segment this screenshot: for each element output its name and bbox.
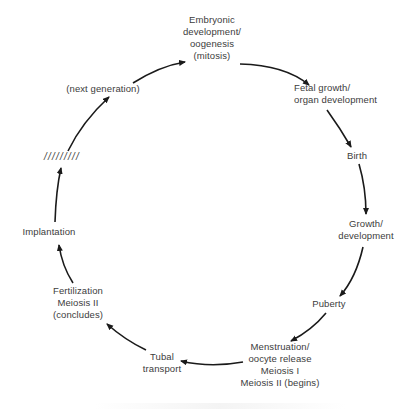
node-tubal-transport: Tubal transport: [143, 351, 181, 375]
node-text: Meiosis II (begins): [241, 377, 320, 389]
arrow-implantation-to-break: [55, 168, 61, 222]
generation-break-hatch: /////////: [44, 151, 80, 163]
node-text: (concludes): [53, 309, 103, 321]
node-text: oogenesis: [183, 38, 241, 50]
node-growth-development: Growth/ development: [338, 218, 394, 242]
node-text: development/: [183, 26, 241, 38]
node-text: /////////: [44, 151, 80, 163]
node-text: Growth/: [338, 218, 394, 230]
node-embryonic-development: Embryonic development/ oogenesis (mitosi…: [183, 14, 241, 62]
arrow-menstruation-to-tubal: [181, 361, 243, 365]
arrow-growth-to-puberty: [340, 247, 363, 296]
arrow-birth-to-growth: [359, 164, 366, 214]
node-text: Embryonic: [183, 14, 241, 26]
arrow-tubal-to-fertilization: [107, 324, 146, 350]
node-fertilization: Fertilization Meiosis II (concludes): [53, 285, 103, 321]
cycle-arrows: [0, 0, 416, 417]
arrow-fertilization-to-implantation: [59, 245, 73, 283]
arrow-fetal-to-birth: [327, 110, 351, 147]
node-implantation: Implantation: [23, 226, 76, 238]
node-text: (next generation): [66, 83, 140, 95]
node-text: Implantation: [23, 226, 76, 238]
node-text: Fertilization: [53, 285, 103, 297]
faint-artifact: [95, 403, 345, 409]
node-text: Meiosis II: [53, 297, 103, 309]
arrow-next-to-embryonic: [133, 62, 185, 83]
arrow-break-to-next: [68, 97, 109, 151]
node-text: oocyte release: [241, 353, 320, 365]
node-text: Tubal: [143, 351, 181, 363]
cycle-diagram: Embryonic development/ oogenesis (mitosi…: [0, 0, 416, 417]
node-fetal-growth: Fetal growth/ organ development: [294, 82, 377, 106]
node-text: Puberty: [312, 298, 345, 310]
node-text: Birth: [347, 150, 367, 162]
arrow-puberty-to-menstruation: [291, 313, 326, 341]
node-puberty: Puberty: [312, 298, 345, 310]
node-text: Fetal growth/: [294, 82, 377, 94]
node-text: organ development: [294, 94, 377, 106]
node-text: transport: [143, 363, 181, 375]
node-menstruation: Menstruation/ oocyte release Meiosis I M…: [241, 341, 320, 389]
node-text: Meiosis I: [241, 365, 320, 377]
node-text: development: [338, 230, 394, 242]
node-birth: Birth: [347, 150, 367, 162]
node-text: (mitosis): [183, 50, 241, 62]
node-text: Menstruation/: [241, 341, 320, 353]
node-next-generation: (next generation): [66, 83, 140, 95]
